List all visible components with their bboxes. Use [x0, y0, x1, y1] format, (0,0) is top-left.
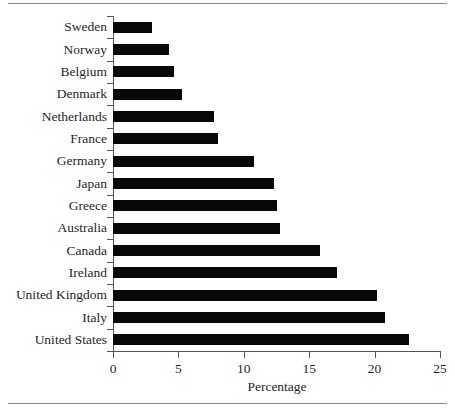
- bar: [113, 245, 320, 256]
- y-tick-mark: [107, 16, 113, 17]
- y-tick-mark: [107, 306, 113, 307]
- category-label: United States: [0, 333, 107, 346]
- category-label: United Kingdom: [0, 288, 107, 301]
- bar: [113, 200, 277, 211]
- bar: [113, 267, 337, 278]
- y-tick-mark: [107, 128, 113, 129]
- category-label: Greece: [0, 199, 107, 212]
- y-tick-mark: [107, 217, 113, 218]
- category-label: Denmark: [0, 87, 107, 100]
- y-tick-mark: [107, 329, 113, 330]
- horizontal-bar-chart: SwedenNorwayBelgiumDenmarkNetherlandsFra…: [0, 0, 455, 414]
- bar: [113, 111, 214, 122]
- bar: [113, 334, 409, 345]
- category-label: Germany: [0, 154, 107, 167]
- x-tick-label: 15: [289, 361, 329, 376]
- x-tick-mark: [113, 352, 114, 358]
- y-tick-mark: [107, 195, 113, 196]
- y-tick-mark: [107, 105, 113, 106]
- x-tick-mark: [375, 352, 376, 358]
- category-label: Netherlands: [0, 110, 107, 123]
- y-tick-mark: [107, 262, 113, 263]
- category-label: France: [0, 132, 107, 145]
- x-tick-mark: [309, 352, 310, 358]
- x-tick-mark: [244, 352, 245, 358]
- x-axis-title: Percentage: [113, 379, 441, 394]
- category-label: Italy: [0, 311, 107, 324]
- category-label: Japan: [0, 177, 107, 190]
- y-tick-mark: [107, 284, 113, 285]
- category-label: Belgium: [0, 65, 107, 78]
- x-tick-label: 25: [420, 361, 455, 376]
- category-label: Australia: [0, 221, 107, 234]
- y-tick-mark: [107, 61, 113, 62]
- bar: [113, 290, 377, 301]
- x-tick-label: 10: [224, 361, 264, 376]
- x-tick-label: 5: [158, 361, 198, 376]
- category-label: Canada: [0, 244, 107, 257]
- y-tick-mark: [107, 150, 113, 151]
- y-tick-mark: [107, 83, 113, 84]
- bar: [113, 223, 280, 234]
- bar: [113, 156, 254, 167]
- x-axis-line: [113, 351, 441, 352]
- x-tick-label: 0: [93, 361, 133, 376]
- bar: [113, 22, 152, 33]
- y-tick-mark: [107, 172, 113, 173]
- x-tick-mark: [440, 352, 441, 358]
- category-label: Sweden: [0, 20, 107, 33]
- bar: [113, 178, 274, 189]
- x-tick-label: 20: [355, 361, 395, 376]
- bar: [113, 44, 169, 55]
- bar: [113, 89, 182, 100]
- category-label: Norway: [0, 43, 107, 56]
- bar: [113, 66, 174, 77]
- bar: [113, 312, 385, 323]
- y-tick-mark: [107, 239, 113, 240]
- y-tick-mark: [107, 38, 113, 39]
- category-label: Ireland: [0, 266, 107, 279]
- bar: [113, 133, 218, 144]
- x-tick-mark: [178, 352, 179, 358]
